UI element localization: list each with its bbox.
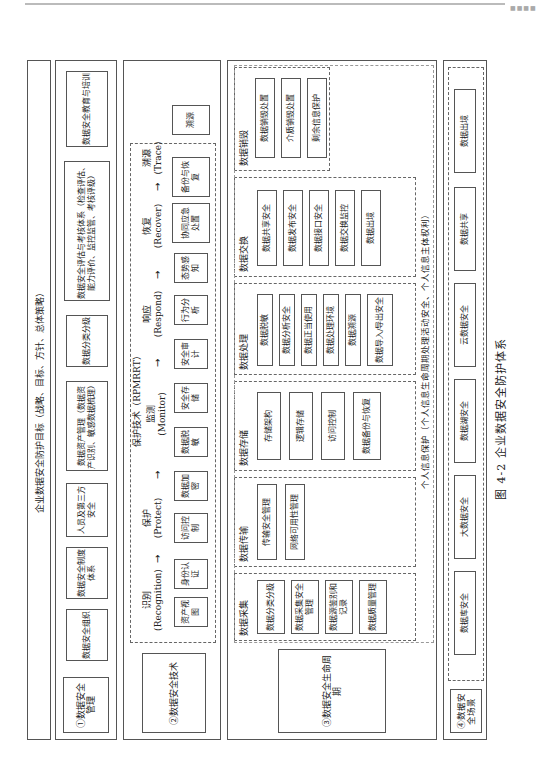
personal-info-footer: 个人信息保护（个人信息生命周期处理活动安全、个人信息主体权利） [420, 119, 431, 579]
goal-banner: 企业数据安全防护目标（战略、目标、方针、总体策略） [27, 60, 51, 740]
tech-item: 溯源 [172, 105, 210, 135]
scenario-layer: ④数据安全场景 数据库安全 大数据安全 数据湖安全 云数据安全 数据共享 数据出… [443, 60, 487, 740]
personal-info-frame [234, 65, 434, 643]
mgmt-item: 数据安全组织 [66, 609, 108, 661]
tech-item: 访问控制 [174, 513, 208, 543]
mgmt-item: 数据安全教育与培训 [66, 71, 108, 147]
rpmrrt-title: 保护技术（RPMRRT） [132, 339, 143, 459]
phase-trace: 溯源(Trace) [142, 133, 164, 183]
mgmt-item: 数据分类分级 [66, 315, 108, 367]
management-layer: ①数据安全管理 数据安全组织 数据安全制度体系 人员及第三方安全 数据资产管理（… [55, 60, 117, 740]
tech-item: 行为分析 [174, 295, 208, 325]
technology-layer: ②数据安全技术 保护技术（RPMRRT） 识别(Recognition) → 保… [123, 60, 221, 740]
phase-respond: 响应(Respond) [142, 279, 164, 349]
figure-caption: 图 4-2 企业数据安全防护体系 [492, 338, 508, 500]
tech-item: 数据脱敏 [174, 427, 208, 457]
lifecycle-layer: ③数据安全生命周期 数据采集 数据分类分级 数据采集安全管理 数据源鉴别和记录 … [227, 60, 437, 740]
mgmt-item: 数据安全评估与考核体系（检查评估、能力评价、监控监管、考核评级） [64, 161, 110, 301]
phase-recognition: 识别(Recognition) [142, 565, 164, 635]
arrow-right-icon: → [152, 471, 163, 479]
arrow-right-icon: → [152, 555, 163, 563]
tech-item: 备份与恢复 [172, 157, 210, 197]
scenario-item: 数据库安全 [454, 571, 476, 655]
scenario-label: ④数据安全场景 [450, 689, 482, 733]
page-top-rule [25, 3, 505, 5]
goal-banner-text: 企业数据安全防护目标（战略、目标、方针、总体策略） [33, 288, 46, 513]
phase-protect: 保护(Protect) [142, 483, 164, 553]
mgmt-item: 数据安全制度体系 [66, 547, 108, 599]
scenario-item: 数据共享 [454, 187, 476, 271]
tech-item: 安全存储 [174, 383, 208, 413]
mgmt-item: 人员及第三方安全 [66, 483, 108, 537]
scenario-item: 大数据安全 [454, 475, 476, 559]
tech-item: 资产视图 [174, 597, 208, 627]
management-label: ①数据安全管理 [63, 677, 109, 733]
scenario-item: 数据湖安全 [454, 379, 476, 463]
phase-recover: 恢复(Recover) [142, 191, 164, 261]
lifecycle-label: ③数据安全生命周期 [278, 649, 386, 733]
arrow-right-icon: → [152, 183, 163, 191]
technology-label: ②数据安全技术 [142, 653, 206, 733]
tech-item: 数据加密 [174, 471, 208, 501]
mgmt-item: 数据资产管理（数据资产识别、敏感数据梳理） [66, 381, 108, 471]
tech-item: 身份认证 [174, 559, 208, 589]
page-corner-dots: ■■■■ [510, 4, 537, 11]
scenario-item: 云数据安全 [454, 283, 476, 367]
tech-item: 态势感知 [174, 253, 208, 283]
tech-item: 安全审计 [174, 339, 208, 369]
phase-monitor: 监测(Monitor) [146, 379, 168, 449]
spacer [134, 141, 136, 143]
tech-item: 协同应急处置 [172, 203, 210, 243]
arrow-right-icon: → [152, 271, 163, 279]
scenario-item: 数据出境 [454, 89, 476, 173]
diagram-rotated: 企业数据安全防护目标（战略、目标、方针、总体策略） ①数据安全管理 数据安全组织… [27, 60, 517, 740]
arrow-right-icon: → [152, 359, 163, 367]
